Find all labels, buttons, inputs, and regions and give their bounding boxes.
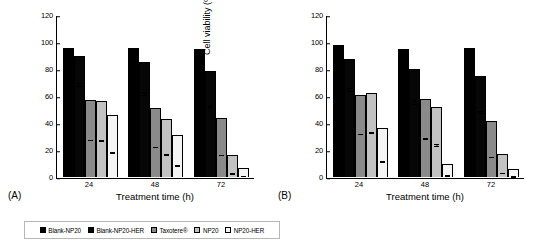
bar-wrapper [74,16,85,177]
error-bar [414,100,415,104]
bar-wrapper [344,16,355,177]
y-tick-80: 80 [315,66,327,74]
error-bar [144,92,145,96]
bar [107,115,118,177]
y-tick-40: 40 [45,120,57,128]
error-bar [210,105,211,107]
panel-tag-b: (B) [278,190,291,201]
bar [85,100,96,177]
y-tick-40: 40 [315,120,327,128]
y-tick-20: 20 [315,147,327,155]
legend-swatch-icon [194,227,200,233]
bar [366,93,377,177]
error-bar [101,140,102,141]
bar [431,107,442,177]
legend-item-np20-her: NP20-HER [225,227,264,234]
bar-wrapper [420,16,431,177]
y-axis-label-b: Cell viability (%) [200,0,214,105]
bar [139,62,150,177]
error-bar [166,154,167,156]
panel-tag-a: (A) [8,190,21,201]
bar [216,118,227,177]
figure-cell-viability: Cell viability (%) 0 20 40 60 80 100 120… [0,0,540,249]
bar [161,119,172,177]
bar-wrapper [355,16,366,177]
x-axis-label-b: Treatment time (h) [326,191,524,202]
error-bar [68,71,69,74]
panel-b: Cell viability (%) 0 20 40 60 80 100 120… [270,0,540,215]
error-bar [480,111,481,114]
y-tick-120: 120 [41,12,57,20]
bar-group [128,16,183,177]
error-bar [155,147,156,148]
bar [96,101,107,177]
bar-wrapper [128,16,139,177]
legend-item-np20: NP20 [194,227,218,234]
y-tick-60: 60 [315,93,327,101]
bar [227,155,238,177]
bar [475,76,486,177]
bar-wrapper [150,16,161,177]
bar-group [333,16,388,177]
bar [74,56,85,177]
legend-item-blank-np20-her: Blank-NP20-HER [88,227,144,234]
error-bar [469,72,470,75]
y-tick-20: 20 [45,147,57,155]
legend-swatch-icon [225,227,231,233]
error-bar [232,174,233,175]
bar [377,128,388,178]
legend-label: NP20 [203,227,218,234]
error-bar [502,173,503,174]
error-bar [436,144,437,147]
legend-label: Blank-NP20-HER [96,227,144,234]
bar [497,154,508,177]
legend-item-blank-np20: Blank-NP20 [40,227,81,234]
bar-wrapper [216,16,227,177]
bar-wrapper [464,16,475,177]
bar-wrapper [377,16,388,177]
bar-wrapper [398,16,409,177]
plot-area-b: 0 20 40 60 80 100 120 [326,16,524,179]
bar-groups-a [58,16,254,177]
bar [409,69,420,177]
bar [486,121,497,177]
legend-item-taxotere: Taxotere® [151,227,187,234]
y-tick-100: 100 [311,39,327,47]
error-bar [349,88,350,92]
error-bar [491,157,492,158]
bar-wrapper [497,16,508,177]
legend-label: Taxotere® [160,227,188,234]
bar [172,135,183,177]
bar-wrapper [63,16,74,177]
bar-wrapper [442,16,453,177]
bar-wrapper [161,16,172,177]
legend-label: NP20-HER [234,227,264,234]
bar [238,168,249,177]
bar-group [63,16,118,177]
error-bar [360,134,361,135]
bar [508,169,519,177]
bar-groups-b [328,16,524,177]
bar-wrapper [85,16,96,177]
error-bar [79,83,80,86]
bar-wrapper [107,16,118,177]
bar [344,59,355,177]
panel-a: Cell viability (%) 0 20 40 60 80 100 120… [0,0,270,215]
legend-swatch-icon [151,227,157,233]
bar-wrapper [227,16,238,177]
bar [398,49,409,177]
legend-swatch-icon [40,227,46,233]
bar-group [398,16,453,177]
bar-wrapper [366,16,377,177]
bar-wrapper [486,16,497,177]
plot-area-a: 0 20 40 60 80 100 120 [56,16,254,179]
bar [464,48,475,177]
legend-label: Blank-NP20 [48,227,81,234]
panel-container: Cell viability (%) 0 20 40 60 80 100 120… [0,0,540,215]
error-bar [112,153,113,154]
bar-wrapper [139,16,150,177]
bar [128,48,139,177]
bar-wrapper [508,16,519,177]
bar-wrapper [409,16,420,177]
error-bar [371,132,372,134]
